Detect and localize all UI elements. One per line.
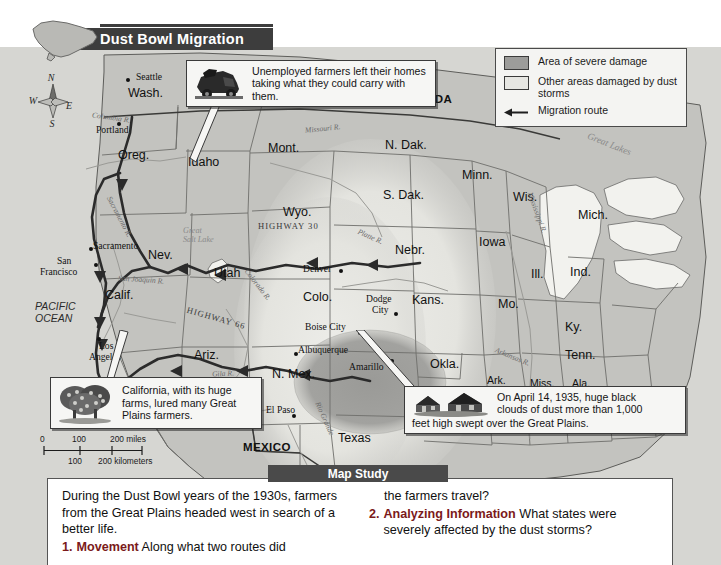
- city-dot-el-paso: [292, 414, 296, 418]
- state-label-sdak: S. Dak.: [383, 188, 424, 202]
- city-label-albuquerque: Albuquerque: [298, 344, 348, 355]
- city-dot-dodge-city: [394, 312, 398, 316]
- loaded-truck-icon: [193, 67, 245, 101]
- state-label-texas: Texas: [338, 431, 371, 445]
- map-scale-bar: 0 100 200 miles 100 200 kilometers: [40, 434, 210, 464]
- ocean-label: PACIFIC OCEAN: [35, 300, 76, 324]
- city-label-dodge-city: City: [372, 304, 389, 315]
- map-study-column-right: the farmers travel? 2. Analyzing Informa…: [369, 488, 658, 565]
- scale-label-100-km: 100: [68, 456, 82, 466]
- legend-item-route: Migration route: [504, 104, 678, 117]
- legend-item-other: Other areas damaged by dust storms: [504, 75, 678, 99]
- state-label-nev: Nev.: [148, 248, 173, 262]
- map-study-intro: During the Dust Bowl years of the 1930s,…: [62, 488, 351, 538]
- callout-pointer-farmers: [182, 100, 222, 164]
- state-label-wyo: Wyo.: [283, 205, 311, 219]
- question-2-number: 2.: [369, 506, 380, 539]
- city-label-denver: Denver: [303, 263, 331, 274]
- compass-rose: N E S W: [24, 68, 82, 128]
- state-label-mo: Mo.: [498, 297, 519, 311]
- state-label-ark: Ark.: [487, 374, 506, 386]
- city-label-seattle: Seattle: [136, 71, 162, 82]
- callout-pointer-dust: [356, 330, 418, 392]
- callout-text-dust-line1: On April 14, 1935, huge black: [497, 391, 636, 403]
- orchard-trees-icon: [57, 382, 115, 424]
- state-label-ill: Ill.: [531, 267, 544, 281]
- callout-text-dust-lines: On April 14, 1935, huge black clouds of …: [497, 391, 642, 416]
- compass-east-label: E: [65, 100, 72, 111]
- legend-label-severe: Area of severe damage: [538, 55, 647, 67]
- city-dot-portland: [117, 122, 121, 126]
- state-label-utah: Utah: [214, 266, 240, 280]
- city-label-portland: Portland: [96, 124, 129, 135]
- legend-item-severe: Area of severe damage: [504, 55, 678, 70]
- dust-bowl-map-page: PACIFIC OCEAN CANADA MEXICO Wash. Oreg. …: [0, 0, 721, 565]
- city-label-sacramento: Sacramento: [93, 240, 138, 251]
- map-study-question-1-cont: the farmers travel?: [369, 488, 658, 505]
- compass-north-label: N: [47, 72, 56, 83]
- callout-text-dust-line2: clouds of dust more than 1,000: [497, 403, 642, 415]
- state-label-ariz: Ariz.: [194, 348, 219, 362]
- scale-label-0: 0: [40, 434, 45, 444]
- question-1-text: Along what two routes did: [142, 540, 286, 554]
- callout-text-california: California, with its huge farms, lured m…: [122, 384, 255, 421]
- map-study-banner: Map Study: [268, 465, 448, 482]
- lake-label-great-salt-lake: Great Salt Lake: [183, 226, 214, 244]
- callout-text-dust-line3: feet high swept over the Great Plains.: [412, 417, 678, 429]
- callout-text-farmers: Unemployed farmers left their homes taki…: [252, 65, 429, 102]
- city-dot-san-francisco: [94, 263, 98, 267]
- highway-label-30: HIGHWAY 30: [258, 221, 319, 231]
- scale-label-200-miles: 200 miles: [110, 434, 146, 444]
- compass-west-label: W: [29, 95, 39, 106]
- map-study-column-left: During the Dust Bowl years of the 1930s,…: [62, 488, 351, 565]
- state-label-okla: Okla.: [430, 357, 459, 371]
- scale-label-200-km: 200 kilometers: [98, 456, 152, 466]
- state-label-calif: Calif.: [105, 288, 133, 302]
- title-rule: [100, 24, 273, 27]
- state-label-minn: Minn.: [462, 168, 493, 182]
- map-legend: Area of severe damage Other areas damage…: [495, 48, 687, 127]
- state-label-nebr: Nebr.: [395, 243, 425, 257]
- scale-label-100-miles: 100: [72, 434, 86, 444]
- city-dot-denver: [339, 269, 343, 273]
- compass-south-label: S: [50, 118, 55, 128]
- question-2-term: Analyzing Information: [384, 507, 516, 521]
- city-label-francisco: Francisco: [40, 266, 77, 277]
- country-label-mexico: MEXICO: [243, 441, 291, 453]
- city-dot-albuquerque: [294, 352, 298, 356]
- state-label-ind: Ind.: [570, 265, 591, 279]
- state-label-colo: Colo.: [303, 290, 332, 304]
- state-label-ndak: N. Dak.: [385, 138, 427, 152]
- legend-label-route: Migration route: [538, 104, 608, 116]
- map-study-question-1: 1. Movement Along what two routes did: [62, 539, 351, 556]
- state-label-wash: Wash.: [128, 86, 163, 100]
- city-dot-sacramento: [89, 247, 93, 251]
- state-label-mont: Mont.: [268, 141, 299, 155]
- state-label-nmex: N. Mex.: [272, 367, 315, 381]
- city-label-el-paso: El Paso: [266, 404, 295, 415]
- question-1-number: 1.: [62, 539, 73, 556]
- legend-swatch-severe: [504, 56, 529, 70]
- migration-arrow-icon: [504, 108, 529, 117]
- map-study-panel: During the Dust Bowl years of the 1930s,…: [47, 478, 673, 565]
- state-label-tenn: Tenn.: [565, 348, 596, 362]
- usa-outline-icon: [27, 15, 103, 63]
- city-label-san: San: [57, 255, 71, 266]
- city-dot-seattle: [126, 78, 130, 82]
- callout-dust: On April 14, 1935, huge black clouds of …: [404, 386, 686, 434]
- question-1-term: Movement: [77, 540, 139, 554]
- callout-farmers: Unemployed farmers left their homes taki…: [186, 60, 436, 107]
- state-label-ky: Ky.: [565, 320, 582, 334]
- state-label-iowa: Iowa: [479, 235, 505, 249]
- city-label-boise-city: Boise City: [305, 321, 346, 332]
- callout-california: California, with its huge farms, lured m…: [50, 377, 262, 429]
- legend-swatch-other: [504, 76, 529, 90]
- city-label-dodge: Dodge: [366, 293, 392, 304]
- map-study-question-2: 2. Analyzing Information What states wer…: [369, 506, 658, 539]
- state-label-oreg: Oreg.: [118, 148, 149, 162]
- legend-label-other: Other areas damaged by dust storms: [538, 75, 678, 99]
- state-label-kans: Kans.: [412, 293, 444, 307]
- farm-houses-icon: [412, 391, 490, 417]
- state-label-mich: Mich.: [578, 208, 608, 222]
